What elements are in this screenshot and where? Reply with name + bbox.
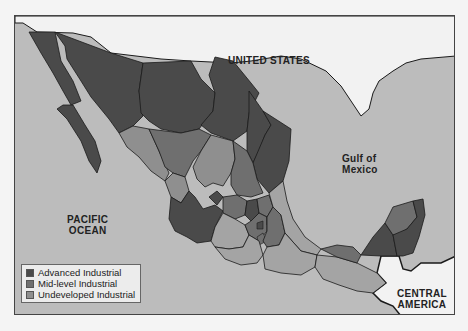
label-central-america: CENTRAL AMERICA xyxy=(397,288,447,310)
map-frame: UNITED STATES Gulf of Mexico PACIFIC OCE… xyxy=(14,15,455,315)
label-central-line1: CENTRAL xyxy=(397,288,447,299)
legend-item-undeveloped: Undeveloped Industrial xyxy=(26,289,135,300)
legend-item-mid-level: Mid-level Industrial xyxy=(26,278,135,289)
label-pacific-ocean: PACIFIC OCEAN xyxy=(67,214,108,236)
aguascalientes xyxy=(209,191,223,205)
baja-california-sur xyxy=(57,105,101,173)
swatch-advanced-icon xyxy=(26,269,34,277)
label-gulf-line1: Gulf of xyxy=(342,153,378,164)
swatch-undeveloped-icon xyxy=(26,291,34,299)
legend-label: Mid-level Industrial xyxy=(38,278,117,289)
legend-label: Undeveloped Industrial xyxy=(38,289,135,300)
label-united-states: UNITED STATES xyxy=(228,55,310,66)
map-legend: Advanced Industrial Mid-level Industrial… xyxy=(21,264,141,303)
label-pacific-line1: PACIFIC xyxy=(67,214,108,225)
legend-label: Advanced Industrial xyxy=(38,267,121,278)
label-central-line2: AMERICA xyxy=(397,299,447,310)
swatch-mid-level-icon xyxy=(26,280,34,288)
label-gulf-of-mexico: Gulf of Mexico xyxy=(342,153,378,175)
label-gulf-line2: Mexico xyxy=(342,164,378,175)
legend-item-advanced: Advanced Industrial xyxy=(26,267,135,278)
label-pacific-line2: OCEAN xyxy=(67,225,108,236)
